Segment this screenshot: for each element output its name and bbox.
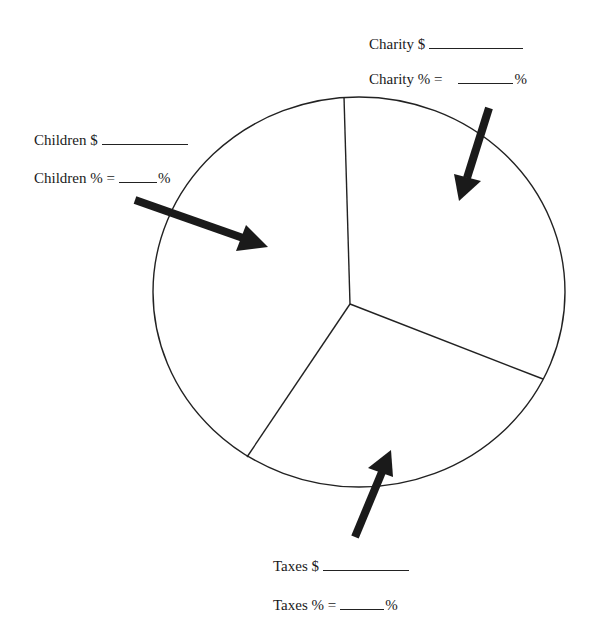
children-arrow-icon xyxy=(135,200,268,251)
taxes-dollar-label: Taxes $ xyxy=(273,557,319,575)
taxes-dollar-row: Taxes $ xyxy=(273,556,409,575)
taxes-arrow-icon xyxy=(355,450,393,537)
taxes-percent-row: Taxes % = % xyxy=(273,595,398,614)
charity-percent-suffix: % xyxy=(514,70,527,88)
children-dollar-label: Children $ xyxy=(34,131,98,149)
children-dollar-blank[interactable] xyxy=(102,130,188,145)
children-percent-label: Children % = xyxy=(34,169,115,187)
children-percent-suffix: % xyxy=(158,169,171,187)
charity-dollar-blank[interactable] xyxy=(429,34,523,49)
charity-percent-label: Charity % = xyxy=(369,70,442,88)
children-percent-row: Children % = % xyxy=(34,168,170,187)
children-percent-blank[interactable] xyxy=(119,168,157,183)
pie-chart xyxy=(0,0,593,629)
charity-percent-row: Charity % = % xyxy=(369,69,527,88)
charity-dollar-label: Charity $ xyxy=(369,35,425,53)
taxes-percent-blank[interactable] xyxy=(340,595,384,610)
divider-bottom-left xyxy=(247,304,350,457)
taxes-percent-suffix: % xyxy=(385,596,398,614)
divider-right xyxy=(350,304,543,379)
divider-top xyxy=(344,97,350,304)
pie-outline xyxy=(153,97,565,487)
charity-dollar-row: Charity $ xyxy=(369,34,523,53)
taxes-dollar-blank[interactable] xyxy=(323,556,409,571)
children-dollar-row: Children $ xyxy=(34,130,188,149)
taxes-percent-label: Taxes % = xyxy=(273,596,336,614)
charity-percent-blank[interactable] xyxy=(458,69,513,84)
